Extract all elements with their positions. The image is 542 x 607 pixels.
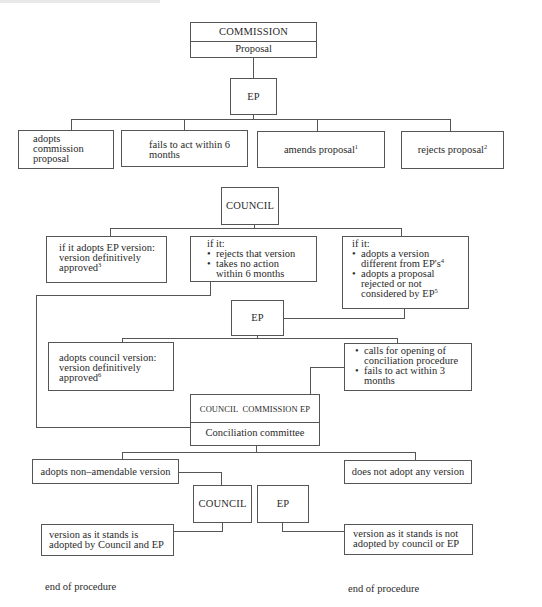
connector [71, 119, 72, 130]
connector [36, 427, 190, 428]
ep-label: EP [247, 92, 259, 102]
ep-first-reading-box: EP [230, 78, 277, 115]
ep-option-adopts-council: adopts council version: version definiti… [48, 342, 174, 391]
connector [310, 367, 311, 395]
conciliation-members: COUNCIL COMMISSION EP [191, 395, 319, 423]
ep-option-rejects: rejects proposal2 [401, 131, 504, 169]
connector [415, 452, 416, 460]
bullet-item: adopts a version different from EP's4 [352, 249, 456, 269]
footnote-marker: 4 [441, 257, 444, 264]
option-text: fails to act within 6 months [149, 140, 239, 160]
council-option-adopts-ep: if it adopts EP version: version definit… [46, 236, 167, 283]
connector [310, 367, 344, 368]
connector [36, 295, 211, 296]
bullet-text: adopts a proposal rejected or not consid… [361, 268, 435, 299]
footnote-marker: 5 [435, 287, 438, 294]
outcome-not-adopted: version as it stands is not adopted by c… [344, 524, 473, 555]
connector [36, 295, 37, 428]
council-label: COUNCIL [198, 499, 246, 509]
final-ep-box: EP [257, 485, 309, 523]
footnote-marker: 3 [98, 261, 101, 268]
bullet-item: takes no action within 6 months [207, 259, 296, 279]
connector [317, 119, 318, 131]
council-box: COUNCIL [221, 187, 279, 225]
ep-option-amends: amends proposal1 [257, 131, 385, 168]
bullet-list: adopts a version different from EP's4 ad… [352, 249, 468, 299]
conciliation-label: Conciliation committee [191, 421, 319, 445]
connector [284, 318, 405, 319]
connector [253, 58, 254, 78]
bullet-list: calls for opening of conciliation proced… [355, 346, 471, 386]
option-text: adopts commission proposal [33, 134, 95, 164]
council-option-rejects: if it: rejects that version takes no act… [190, 236, 317, 282]
bullet-item: adopts a proposal rejected or not consid… [352, 269, 453, 299]
connector [221, 472, 222, 485]
ep-label: EP [277, 499, 289, 509]
option-text: does not adopt any version [352, 467, 465, 477]
branch-line [122, 452, 416, 453]
outcome-adopted: version as it stands is adopted by Counc… [41, 524, 174, 556]
connector [179, 472, 222, 473]
council-label: COUNCIL [226, 201, 274, 211]
connector [450, 119, 451, 131]
cropped-header-remnant [0, 0, 160, 3]
final-council-box: COUNCIL [193, 485, 252, 523]
end-of-procedure-right: end of procedure [348, 584, 419, 594]
conciliation-option-adopts: adopts non–amendable version [32, 459, 179, 484]
conciliation-option-none: does not adopt any version [344, 460, 472, 484]
connector [282, 531, 344, 532]
footnote-marker: 2 [484, 143, 487, 150]
ep-option-adopts: adopts commission proposal [18, 130, 114, 169]
ep-label: EP [251, 313, 263, 323]
end-of-procedure-left: end of procedure [45, 582, 116, 592]
bullet-text: adopts a version different from EP's [361, 248, 441, 269]
option-text-main: amends proposal [284, 144, 355, 155]
ep-option-conciliation: calls for opening of conciliation proced… [344, 343, 472, 391]
branch-line [110, 228, 402, 229]
text-main: approved [59, 262, 98, 273]
connector [401, 228, 402, 236]
proposal-label: Proposal [191, 40, 316, 57]
bullet-item: fails to act within 3 months [355, 366, 459, 386]
connector [210, 282, 211, 296]
footnote-marker: 1 [355, 142, 358, 149]
council-option-different: if it: adopts a version different from E… [342, 236, 469, 309]
text-line: approved3 [59, 263, 166, 273]
connector [184, 119, 185, 130]
bullet-list: rejects that version takes no action wit… [207, 249, 316, 279]
option-text: rejects proposal2 [418, 145, 487, 155]
option-text: adopts non–amendable version [40, 467, 170, 477]
branch-line [71, 119, 451, 120]
conciliation-committee-box: COUNCIL COMMISSION EP Conciliation commi… [190, 394, 320, 446]
text-line: adopted by council or EP [353, 539, 472, 549]
bullet-item: calls for opening of conciliation proced… [355, 346, 469, 366]
text-line: adopted by Council and EP [49, 540, 173, 550]
connector [404, 309, 405, 319]
ep-option-fails: fails to act within 6 months [121, 130, 248, 167]
footnote-marker: 6 [98, 371, 101, 378]
ep-second-box: EP [231, 300, 284, 336]
connector [110, 228, 111, 236]
text-line: approved6 [59, 373, 173, 383]
text-main: approved [59, 372, 98, 383]
branch-line [122, 338, 398, 339]
option-text-main: rejects proposal [418, 144, 484, 155]
connector [174, 531, 223, 532]
commission-box: COMMISSION Proposal [190, 22, 317, 58]
option-text: amends proposal1 [284, 145, 358, 155]
